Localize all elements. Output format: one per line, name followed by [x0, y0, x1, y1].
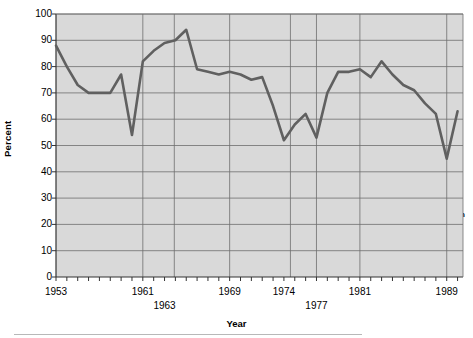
- approval-rating-chart: Percent Year 0102030405060708090100 1953…: [0, 0, 473, 338]
- footer-divider: [14, 334, 362, 335]
- plot-area: [0, 0, 473, 338]
